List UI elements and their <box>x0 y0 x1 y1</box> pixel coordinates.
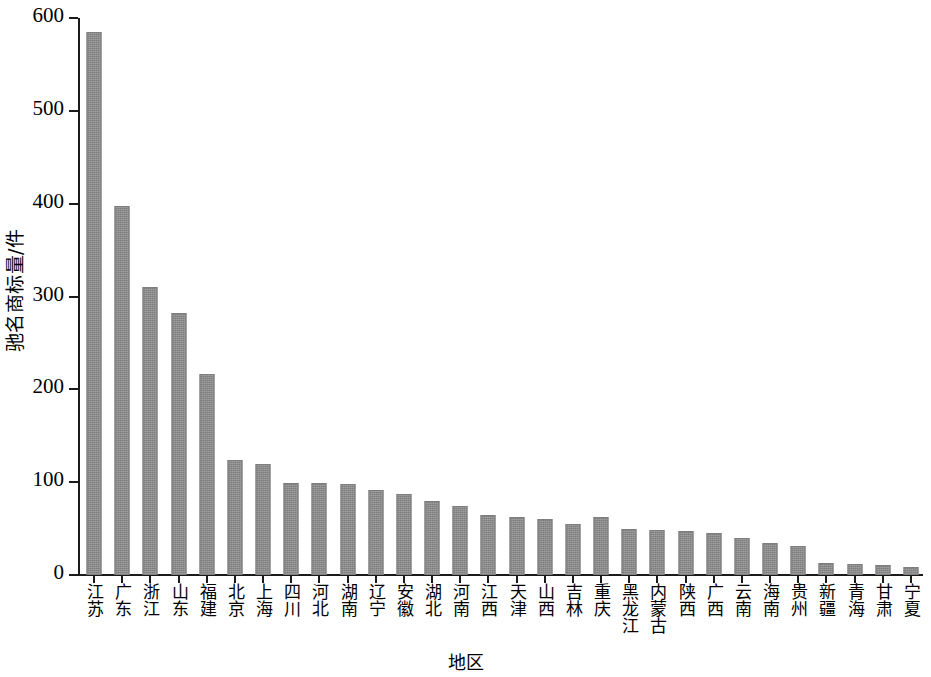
bar-slot <box>812 18 840 575</box>
bar <box>763 543 778 575</box>
bar-slot <box>559 18 587 575</box>
x-axis-category-label: 北京 <box>226 583 243 617</box>
x-axis-category-label: 山西 <box>536 583 553 617</box>
x-axis-category-label: 陕西 <box>677 583 694 617</box>
x-axis-category-label: 辽宁 <box>367 583 384 617</box>
x-axis-category-label: 宁夏 <box>902 583 919 617</box>
y-axis-tick-label: 300 <box>4 284 64 305</box>
x-axis-tick <box>206 575 208 583</box>
bar-slot <box>165 18 193 575</box>
x-axis-tick <box>347 575 349 583</box>
bar <box>678 531 693 575</box>
y-axis-tick: 200 <box>69 388 78 390</box>
bar-slot <box>700 18 728 575</box>
x-axis-category-label: 河南 <box>452 583 469 617</box>
y-axis-tick-label: 500 <box>4 98 64 119</box>
bar-slot <box>869 18 897 575</box>
bar <box>284 483 299 575</box>
bar <box>396 494 411 575</box>
bar-slot <box>80 18 108 575</box>
bar <box>312 483 327 575</box>
x-axis-category-label: 上海 <box>255 583 272 617</box>
bar-slot <box>334 18 362 575</box>
x-axis-tick <box>403 575 405 583</box>
bar <box>227 460 242 575</box>
x-axis-tick <box>318 575 320 583</box>
x-axis-tick <box>656 575 658 583</box>
bar <box>791 546 806 575</box>
bar <box>340 484 355 575</box>
bar-slot <box>615 18 643 575</box>
bar-slot <box>672 18 700 575</box>
x-axis-category-label: 广东 <box>114 583 131 617</box>
x-axis-category-label: 湖南 <box>339 583 356 617</box>
x-axis-tick <box>544 575 546 583</box>
bar-slot <box>249 18 277 575</box>
bar-slot <box>756 18 784 575</box>
x-axis-category-labels: 江苏广东浙江山东福建北京上海四川河北湖南辽宁安徽湖北河南江西天津山西吉林重庆黑龙… <box>80 583 925 645</box>
x-axis-tick <box>234 575 236 583</box>
bar <box>171 313 186 575</box>
bar-slot <box>390 18 418 575</box>
x-axis-category-label: 云南 <box>733 583 750 617</box>
y-axis-tick: 300 <box>69 296 78 298</box>
x-axis-category-label: 海南 <box>762 583 779 617</box>
bar <box>875 565 890 575</box>
bar-slot <box>503 18 531 575</box>
bar <box>594 517 609 575</box>
x-axis-tick <box>487 575 489 583</box>
x-axis-tick <box>910 575 912 583</box>
y-axis-tick: 400 <box>69 203 78 205</box>
bar <box>143 287 158 575</box>
bar <box>847 564 862 575</box>
bar-slot <box>305 18 333 575</box>
x-axis-tick <box>854 575 856 583</box>
x-axis-category-label: 湖北 <box>424 583 441 617</box>
x-axis-category-label: 浙江 <box>142 583 159 617</box>
bar <box>650 530 665 575</box>
x-axis-tick <box>375 575 377 583</box>
x-axis-category-label: 四川 <box>283 583 300 617</box>
x-axis-tick <box>628 575 630 583</box>
y-axis-tick-label: 100 <box>4 469 64 490</box>
bar-slot <box>418 18 446 575</box>
bar-slot <box>362 18 390 575</box>
bar <box>903 567 918 575</box>
bar-slot <box>446 18 474 575</box>
x-axis-tick <box>741 575 743 583</box>
y-axis-tick: 600 <box>69 17 78 19</box>
x-axis-tick <box>882 575 884 583</box>
x-axis-category-label: 贵州 <box>790 583 807 617</box>
x-axis-category-label: 内蒙古 <box>649 583 666 634</box>
y-axis-tick: 0 <box>69 574 78 576</box>
bar <box>481 515 496 575</box>
x-axis-category-label: 重庆 <box>593 583 610 617</box>
bar-slot <box>108 18 136 575</box>
x-axis-category-label: 天津 <box>508 583 525 617</box>
x-axis-tick <box>290 575 292 583</box>
x-axis-tick <box>178 575 180 583</box>
x-axis-tick <box>825 575 827 583</box>
bar-slot <box>277 18 305 575</box>
x-axis-tick <box>93 575 95 583</box>
bar-slot <box>643 18 671 575</box>
x-axis-category-label: 河北 <box>311 583 328 617</box>
bar <box>622 529 637 575</box>
bar <box>537 519 552 575</box>
y-axis-tick-label: 400 <box>4 191 64 212</box>
x-axis-tick <box>797 575 799 583</box>
bar-slot <box>897 18 925 575</box>
x-axis-tick <box>713 575 715 583</box>
x-axis-tick <box>600 575 602 583</box>
bar-slot <box>587 18 615 575</box>
bar <box>87 32 102 575</box>
y-axis-tick-label: 600 <box>4 5 64 26</box>
x-axis-tick <box>431 575 433 583</box>
bar-chart-figure: 驰名商标量/件 0100200300400500600 江苏广东浙江山东福建北京… <box>0 0 931 677</box>
x-axis-tick <box>121 575 123 583</box>
bar-slot <box>193 18 221 575</box>
x-axis-tick <box>262 575 264 583</box>
y-axis-tick-label: 0 <box>4 562 64 583</box>
bar <box>734 538 749 575</box>
y-axis-tick: 100 <box>69 481 78 483</box>
